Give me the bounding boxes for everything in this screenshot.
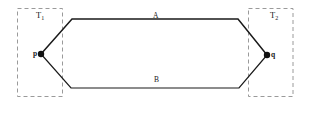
figure-canvas: T1 T2 A B p q <box>0 0 313 114</box>
path-label-B: B <box>154 76 159 84</box>
region-label-T2-sub: 2 <box>275 15 278 21</box>
path-label-A: A <box>153 12 158 20</box>
point-label-p: p <box>33 50 37 58</box>
region-label-T1: T1 <box>36 11 44 20</box>
region-label-T2: T2 <box>270 11 278 20</box>
path-A-polyline <box>41 19 267 55</box>
region-label-T1-sub: 1 <box>41 15 44 21</box>
point-marker-q <box>264 52 270 58</box>
point-marker-p <box>38 51 44 57</box>
point-label-q: q <box>271 51 275 59</box>
